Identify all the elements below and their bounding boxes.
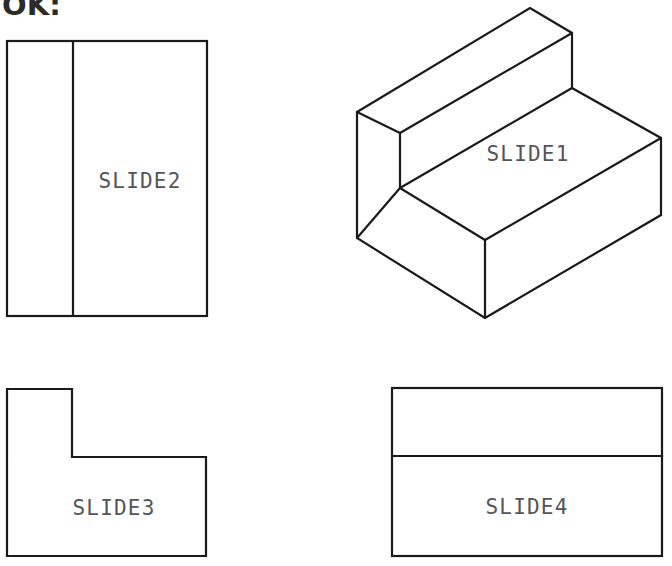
slide1-edge-step-inner-left <box>357 188 400 238</box>
slide1-label: SLIDE1 <box>486 142 569 166</box>
slide1-edge-step-top-face <box>400 33 572 133</box>
slide3-label: SLIDE3 <box>72 496 155 520</box>
slide1-edge-front-top-left-run <box>400 188 485 240</box>
slide4-outline-rect[interactable] <box>392 388 662 556</box>
view-slide2[interactable]: SLIDE2 <box>7 41 207 316</box>
slide1-edge-step-seat-front <box>400 88 572 188</box>
technical-drawing-canvas: SLIDE2 SLIDE1 SLIDE3 SLIDE4 <box>0 0 672 566</box>
view-slide3[interactable]: SLIDE3 <box>7 389 206 556</box>
view-slide1[interactable]: SLIDE1 <box>357 8 661 318</box>
slide1-edge-top-back-face-left <box>357 112 400 133</box>
slide3-outline-lshape[interactable] <box>7 389 206 556</box>
view-slide4[interactable]: SLIDE4 <box>392 388 662 556</box>
slide4-label: SLIDE4 <box>485 495 568 519</box>
slide2-label: SLIDE2 <box>98 169 181 193</box>
